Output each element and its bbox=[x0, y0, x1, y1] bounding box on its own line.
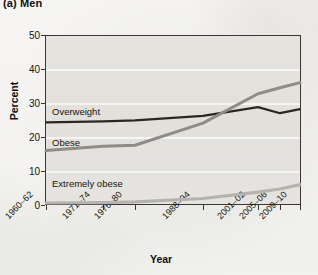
series-lines bbox=[0, 0, 318, 275]
series-label-overweight: Overweight bbox=[52, 106, 100, 117]
series-label-obese: Obese bbox=[52, 137, 80, 148]
series-label-extremely-obese: Extremely obese bbox=[52, 178, 123, 189]
figure-men-obesity-trends: (a) Men 0 10 20 30 40 50 1960–62 1971–74… bbox=[0, 0, 318, 275]
